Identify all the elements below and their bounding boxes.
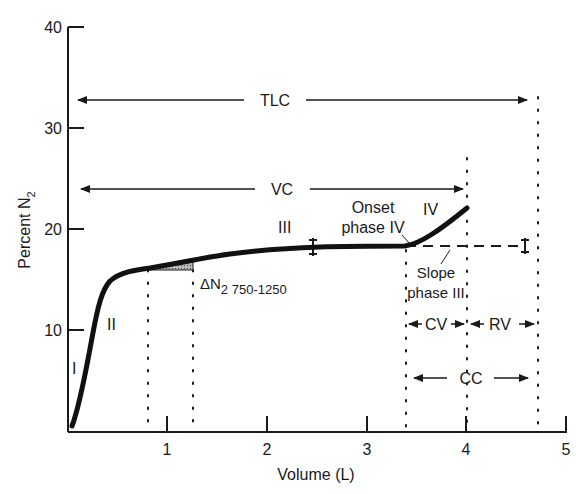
- nitrogen-washout-chart: 40 30 20 10 1 2 3 4 5 Volume (L) Percent…: [0, 0, 576, 494]
- delta-n2-label: ΔN2 750-1250: [200, 275, 287, 297]
- washout-curve: [72, 208, 467, 426]
- x-tick-labels: 1 2 3 4 5: [163, 441, 571, 458]
- cv-rv-arrows: CV RV: [409, 316, 534, 333]
- vc-label: VC: [271, 181, 293, 198]
- y-tick-label: 20: [44, 221, 62, 238]
- y-tick-labels: 40 30 20 10: [44, 19, 62, 339]
- rv-label: RV: [489, 316, 511, 333]
- axes: [68, 27, 567, 432]
- phase-i-label: I: [72, 360, 76, 377]
- x-tick-label: 4: [462, 441, 471, 458]
- x-tick-label: 5: [562, 441, 571, 458]
- svg-text:Slope: Slope: [417, 264, 455, 281]
- cv-label: CV: [425, 316, 448, 333]
- y-tick-label: 10: [44, 322, 62, 339]
- phase-iii-label: III: [278, 219, 291, 236]
- svg-text:Onset: Onset: [352, 199, 395, 216]
- x-tick-label: 3: [363, 441, 372, 458]
- vc-arrow: VC: [81, 181, 463, 198]
- phase-iv-label: IV: [423, 201, 438, 218]
- phase-ii-label: II: [107, 316, 116, 333]
- cc-label: CC: [459, 370, 482, 387]
- cc-arrow: CC: [414, 370, 528, 387]
- slope-phase-iii-annotation: Slope phase III: [407, 250, 465, 301]
- x-tick-label: 1: [163, 441, 172, 458]
- svg-text:phase III: phase III: [407, 284, 465, 301]
- tlc-label: TLC: [260, 92, 290, 109]
- y-tick-label: 40: [44, 19, 62, 36]
- tlc-arrow: TLC: [78, 92, 527, 109]
- svg-text:phase IV: phase IV: [341, 219, 404, 236]
- y-axis-title: Percent N2: [16, 191, 37, 268]
- x-axis-title: Volume (L): [277, 466, 354, 483]
- onset-phase-iv-annotation: Onset phase IV: [341, 199, 410, 244]
- y-tick-label: 30: [44, 120, 62, 137]
- x-tick-label: 2: [263, 441, 272, 458]
